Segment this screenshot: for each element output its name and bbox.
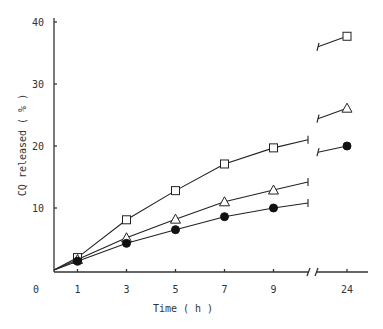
labels: 4030201001357924Time ( h )CQ released ( …: [17, 17, 353, 314]
series-group: [54, 32, 352, 270]
circle-marker: [343, 142, 351, 150]
release-chart: 4030201001357924Time ( h )CQ released ( …: [0, 0, 383, 329]
circle-marker: [221, 213, 229, 221]
square-marker: [270, 144, 278, 152]
x-tick-label: 1: [74, 284, 80, 295]
y-axis-title: CQ released ( % ): [17, 94, 28, 196]
x-axis-title: Time ( h ): [153, 303, 213, 314]
series-line: [54, 203, 308, 270]
circle-marker: [123, 239, 131, 247]
x-tick-label: 0: [33, 284, 39, 295]
square-marker: [343, 32, 351, 40]
x-tick-label: 9: [270, 284, 276, 295]
x-tick-label: 3: [123, 284, 129, 295]
y-tick-label: 20: [32, 141, 44, 152]
square-marker: [172, 187, 180, 195]
series-line: [54, 140, 308, 270]
circle-marker: [270, 204, 278, 212]
square-marker: [221, 160, 229, 168]
circle-marker: [74, 257, 82, 265]
x-tick-label: 5: [172, 284, 178, 295]
series-filled-circle: [54, 142, 351, 270]
series-line: [54, 182, 308, 270]
circle-marker: [172, 226, 180, 234]
y-tick-label: 30: [32, 79, 44, 90]
series-open-triangle: [54, 103, 352, 270]
x-tick-label: 7: [221, 284, 227, 295]
x-tick-label: 24: [341, 284, 353, 295]
y-tick-label: 40: [32, 17, 44, 28]
series-line-after-break: [318, 108, 347, 119]
triangle-marker: [342, 103, 352, 112]
triangle-marker: [171, 214, 181, 223]
series-open-square: [54, 32, 351, 270]
y-tick-label: 10: [32, 203, 44, 214]
square-marker: [123, 216, 131, 224]
axes: [54, 18, 368, 276]
